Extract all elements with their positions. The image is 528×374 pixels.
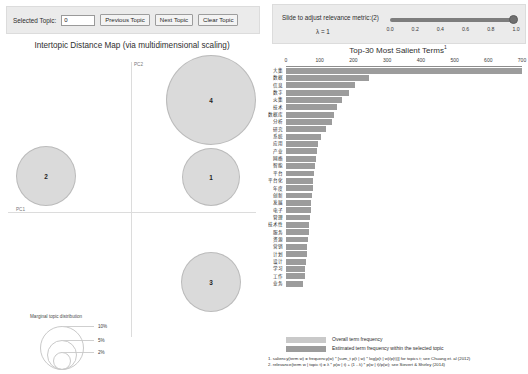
bar-row[interactable]: 学习	[268, 265, 528, 272]
mds-topic-circle-3[interactable]: 3	[181, 252, 241, 312]
barchart-title: Top-30 Most Salient Terms1	[268, 44, 528, 55]
bar-term-label[interactable]: 网络	[268, 155, 283, 162]
bar-row[interactable]: 信息	[268, 82, 528, 89]
marginal-topic-distribution-title: Marginal topic distribution	[30, 314, 82, 319]
bar-row[interactable]: 应用	[268, 140, 528, 147]
barchart-title-footnote-marker: 1	[444, 44, 447, 50]
x-tick-200: 200	[349, 57, 357, 63]
bar-row[interactable]: 平台化	[268, 177, 528, 184]
bar-topic-frequency	[286, 163, 315, 169]
bar-topic-frequency	[286, 148, 317, 154]
bar-row[interactable]: 数据	[268, 74, 528, 81]
bar-row[interactable]: 营销	[268, 243, 528, 250]
bar-term-label[interactable]: 技术	[268, 104, 283, 111]
bar-row[interactable]: 年度	[268, 185, 528, 192]
bar-term-label[interactable]: 系统	[268, 133, 283, 140]
legend-item-selected: Estimated term frequency within the sele…	[286, 345, 528, 353]
bar-term-label[interactable]: 学习	[268, 265, 283, 272]
bar-row[interactable]: 火集	[268, 96, 528, 103]
bar-term-label[interactable]: 数据	[268, 74, 283, 81]
bar-row[interactable]: 设计	[268, 258, 528, 265]
relevance-slider-track[interactable]	[390, 18, 514, 22]
bar-term-label[interactable]: 计划	[268, 251, 283, 258]
clear-topic-button[interactable]: Clear Topic	[198, 14, 238, 25]
bar-row[interactable]: 服务	[268, 229, 528, 236]
bar-row[interactable]: 技术性	[268, 221, 528, 228]
bar-term-label[interactable]: 技术性	[268, 221, 283, 228]
barchart-bars: 大集数据信息数字火集技术数据库分析研究系统应用产业网络智能平台平台化年度创新发展…	[268, 67, 528, 287]
bar-row[interactable]: 创新	[268, 192, 528, 199]
bar-row[interactable]: 资源	[268, 236, 528, 243]
bar-row[interactable]: 技术	[268, 104, 528, 111]
bar-term-label[interactable]: 研究	[268, 126, 283, 133]
bar-term-label[interactable]: 应用	[268, 140, 283, 147]
bar-topic-frequency	[286, 141, 318, 147]
bar-track	[286, 104, 522, 110]
mds-pc1-label: PC1	[16, 207, 25, 212]
bar-term-label[interactable]: 平台化	[268, 177, 283, 184]
bar-row[interactable]: 数据库	[268, 111, 528, 118]
previous-topic-button[interactable]: Previous Topic	[100, 14, 150, 25]
bar-track	[286, 134, 522, 140]
bar-row[interactable]: 平台	[268, 170, 528, 177]
bar-row[interactable]: 系统	[268, 133, 528, 140]
bar-row[interactable]: 电子	[268, 207, 528, 214]
bar-track	[286, 185, 522, 191]
bar-term-label[interactable]: 服务	[268, 229, 283, 236]
relevance-slider-handle[interactable]	[509, 15, 518, 24]
bar-term-label[interactable]: 电子	[268, 207, 283, 214]
bar-row[interactable]: 发展	[268, 199, 528, 206]
mds-topic-circle-2[interactable]: 2	[16, 146, 76, 206]
bar-row[interactable]: 业务	[268, 280, 528, 287]
bar-term-label[interactable]: 资源	[268, 236, 283, 243]
bar-topic-frequency	[286, 119, 332, 125]
bar-topic-frequency	[286, 281, 303, 287]
bar-row[interactable]: 工作	[268, 273, 528, 280]
bar-topic-frequency	[286, 90, 349, 96]
bar-topic-frequency	[286, 68, 522, 74]
bar-term-label[interactable]: 分析	[268, 118, 283, 125]
bar-row[interactable]: 产业	[268, 148, 528, 155]
bar-term-label[interactable]: 数字	[268, 89, 283, 96]
bar-track	[286, 273, 522, 279]
x-tick-100: 100	[316, 57, 324, 63]
bar-row[interactable]: 分析	[268, 118, 528, 125]
bar-topic-frequency	[286, 185, 313, 191]
bar-term-label[interactable]: 火集	[268, 96, 283, 103]
bar-term-label[interactable]: 大集	[268, 67, 283, 74]
bar-topic-frequency	[286, 237, 308, 243]
legend-label-selected: Estimated term frequency within the sele…	[332, 345, 443, 352]
bar-topic-frequency	[286, 134, 321, 140]
bar-term-label[interactable]: 数据库	[268, 111, 283, 118]
bar-row[interactable]: 网络	[268, 155, 528, 162]
mds-topic-circle-4[interactable]: 4	[166, 55, 256, 145]
bar-row[interactable]: 大集	[268, 67, 528, 74]
bar-term-label[interactable]: 工作	[268, 273, 283, 280]
selected-topic-input[interactable]	[61, 15, 95, 26]
next-topic-button[interactable]: Next Topic	[155, 14, 193, 25]
bar-term-label[interactable]: 业务	[268, 280, 283, 287]
bar-row[interactable]: 智能	[268, 162, 528, 169]
bar-term-label[interactable]: 设计	[268, 258, 283, 265]
bar-row[interactable]: 计划	[268, 251, 528, 258]
bar-term-label[interactable]: 智能	[268, 162, 283, 169]
bar-row[interactable]: 研究	[268, 126, 528, 133]
bar-term-label[interactable]: 发展	[268, 199, 283, 206]
bar-row[interactable]: 管理	[268, 214, 528, 221]
bar-term-label[interactable]: 创新	[268, 192, 283, 199]
bar-term-label[interactable]: 管理	[268, 214, 283, 221]
bar-topic-frequency	[286, 229, 309, 235]
bar-row[interactable]: 数字	[268, 89, 528, 96]
bar-term-label[interactable]: 营销	[268, 243, 283, 250]
bar-term-label[interactable]: 信息	[268, 82, 283, 89]
bar-track	[286, 119, 522, 125]
bar-track	[286, 82, 522, 88]
bar-topic-frequency	[286, 266, 305, 272]
mtd-label-10pct: 10%	[98, 324, 107, 329]
bar-term-label[interactable]: 产业	[268, 148, 283, 155]
slider-tick-0-8: 0.8	[487, 26, 494, 32]
bar-term-label[interactable]: 年度	[268, 185, 283, 192]
mds-topic-circle-1[interactable]: 1	[182, 148, 240, 206]
bar-term-label[interactable]: 平台	[268, 170, 283, 177]
